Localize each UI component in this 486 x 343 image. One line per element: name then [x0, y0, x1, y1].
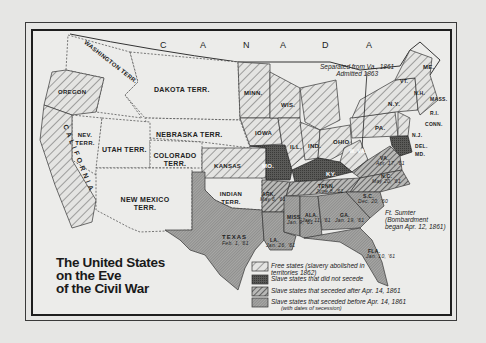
label-delaware: DEL.	[415, 142, 428, 150]
michigan	[300, 80, 340, 130]
map-title: The United States on the Eve of the Civi…	[56, 256, 165, 295]
label-kentucky: KY.	[326, 170, 336, 178]
date-georgia: Jan. 19, '61	[335, 217, 364, 223]
legend-swatch-after	[252, 287, 268, 296]
date-arkansas: May 6, '61	[260, 196, 286, 202]
label-dakota-terr: DAKOTA TERR.	[154, 86, 210, 94]
date-virginia: Apr. 17, '61	[376, 160, 405, 166]
label-west-virginia: W. VA.	[349, 147, 367, 155]
label-minnesota: MINN.	[244, 89, 263, 97]
legend-seceded-before-sub: (with dates of secession)	[271, 305, 406, 312]
label-colorado-terr: COLORADO TERR.	[152, 152, 198, 168]
label-utah-terr: UTAH TERR.	[102, 146, 147, 154]
label-rhode-island: R.I.	[430, 109, 439, 117]
legend-free: Free states (slavery abolished in territ…	[271, 262, 381, 275]
label-kansas: KANSAS	[214, 162, 241, 170]
label-pennsylvania: PA.	[375, 124, 385, 132]
label-nebraska-terr: NEBRASKA TERR.	[156, 131, 223, 139]
date-louisiana: Jan. 26, '61	[266, 242, 295, 248]
label-oregon: OREGON	[58, 88, 86, 96]
new-jersey	[398, 112, 410, 136]
legend-swatch-before	[252, 298, 268, 307]
legend-seceded-before: Slave states that seceded before Apr. 14…	[271, 298, 406, 305]
label-maine: ME.	[423, 63, 435, 71]
wisconsin	[270, 72, 300, 118]
label-new-york: N.Y.	[388, 100, 400, 108]
date-south-carolina: Dec. 20, '60	[358, 198, 388, 204]
label-iowa: IOWA	[255, 129, 272, 137]
date-texas: Feb. 1, '61	[222, 240, 249, 246]
label-new-mexico-terr: NEW MEXICO TERR.	[116, 196, 174, 212]
label-vermont: VT.	[400, 77, 408, 85]
legend-seceded-after: Slave states that seceded after Apr. 14,…	[271, 287, 406, 298]
wv-annotation: Separated from Va., 1861 Admitted 1863	[320, 63, 394, 77]
label-massachusetts: MASS.	[430, 95, 447, 103]
label-wisconsin: WIS.	[281, 101, 295, 109]
label-new-hampshire: N.H.	[414, 89, 425, 97]
label-indiana: IND.	[308, 142, 321, 150]
legend: Free states (slavery abolished in territ…	[271, 262, 406, 312]
fort-sumter-annotation: Ft. Sumter (Bombardment began Apr. 12, 1…	[385, 209, 446, 230]
utah-territory	[96, 118, 150, 168]
label-maryland: MD.	[415, 150, 425, 158]
label-indian-terr: INDIAN TERR.	[217, 190, 245, 206]
label-new-jersey: N.J.	[412, 131, 422, 139]
date-florida: Jan. 10, '61	[366, 253, 395, 259]
date-tennessee: June 8, '61	[316, 188, 344, 194]
legend-swatch-no-secede	[252, 275, 268, 284]
date-alabama: Jan. 11, '61	[302, 217, 331, 223]
legend-swatch-free	[252, 262, 268, 271]
date-north-carolina: May 20, '61	[372, 178, 401, 184]
label-connecticut: CONN.	[425, 120, 443, 128]
legend-no-secede: Slave states that did not secede	[271, 275, 406, 287]
label-missouri: MO.	[262, 162, 274, 170]
label-ohio: OHIO	[333, 138, 350, 146]
label-illinois: ILL.	[290, 143, 302, 151]
